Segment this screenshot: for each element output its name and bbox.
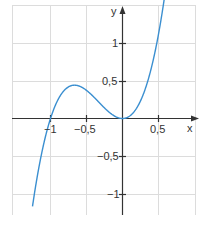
- grid: [12, 5, 196, 215]
- function-curve: [33, 0, 165, 206]
- x-tick-label: −0,5: [74, 123, 96, 135]
- axes: [12, 6, 199, 215]
- y-tick-label: −1: [107, 188, 120, 200]
- y-axis-arrow-icon: [120, 6, 126, 14]
- y-tick-label: 0,5: [102, 75, 117, 87]
- y-axis-label: y: [111, 5, 117, 17]
- x-tick-label: −1: [44, 123, 57, 135]
- function-plot: x y −1 −0,5 0,5 1 0,5 −0,5 −1: [0, 0, 207, 229]
- y-tick-label: 1: [112, 37, 118, 49]
- x-axis-label: x: [187, 122, 193, 134]
- x-tick-label: 0,5: [150, 123, 165, 135]
- y-tick-label: −0,5: [97, 150, 119, 162]
